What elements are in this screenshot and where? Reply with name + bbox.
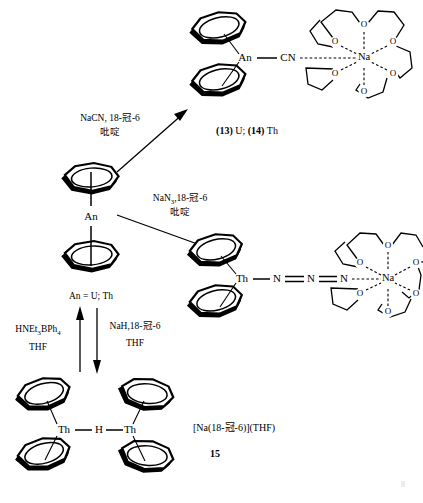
crown-oxygen-label: O: [332, 36, 339, 46]
cyanide-ligand-label: CN: [280, 51, 295, 63]
dimer-counterion-caption: [Na(18-冠-6)](THF): [193, 422, 275, 434]
cyanide-metal-label: An: [238, 51, 252, 63]
reaction-scheme-diagram: An An = U; Th NaCN, 18-冠-6 吡啶 NaN3,18-冠-…: [0, 0, 423, 503]
reagent-cyanide-line1: NaCN, 18-冠-6: [80, 113, 140, 123]
central-caption: An = U; Th: [69, 291, 113, 301]
reagent-label-cyanide: NaCN, 18-冠-6 吡啶: [80, 113, 140, 137]
reagent-up-line1: HNEt3BPh4: [15, 324, 61, 335]
crown-oxygen-label: O: [413, 257, 420, 267]
reagent-up-line2: THF: [29, 342, 47, 352]
dimer-left-cot-bottom: [12, 434, 74, 476]
azide-nitrogen-1: N: [273, 272, 281, 284]
crown-oxygen-label: O: [385, 240, 392, 250]
reagent-down-line2: THF: [126, 338, 144, 348]
azide-nitrogen-2: N: [307, 272, 315, 284]
crown-oxygen-label: O: [413, 288, 420, 298]
crown-oxygen-label: O: [332, 68, 339, 78]
azide-nitrogen-3: N: [340, 272, 348, 284]
cyanide-sodium-label: Na: [358, 51, 371, 62]
reaction-arrow-up: [76, 306, 84, 372]
central-starting-material: An An = U; Th: [61, 163, 118, 301]
reagent-cyanide-line2: 吡啶: [100, 126, 120, 137]
product-hydride-dimer: Th H Th [Na(18-冠-6)](THF) 15: [12, 373, 276, 477]
dimer-compound-number: 15: [210, 448, 220, 459]
reagent-azide-line2: 吡啶: [170, 206, 190, 217]
crown-oxygen-label: O: [385, 306, 392, 316]
cyanide-cot-ring-bottom: [186, 60, 249, 101]
azide-metal-label: Th: [236, 272, 249, 284]
crown-oxygen-label: O: [357, 288, 364, 298]
crown-oxygen-label: O: [357, 257, 364, 267]
crown-oxygen-label: O: [390, 36, 397, 46]
reagent-label-azide: NaN3,18-冠-6 吡啶: [153, 193, 208, 217]
cyanide-compound-caption: (13) U; (14) Th: [216, 125, 278, 137]
dimer-right-cot-bottom: [114, 435, 176, 477]
dimer-right-cot-top: [114, 373, 176, 415]
crown-oxygen-label: O: [361, 86, 368, 96]
azide-cot-ring-bottom: [184, 281, 245, 322]
central-metal-label: An: [84, 210, 98, 222]
reaction-arrow-down: [93, 308, 101, 374]
cot-ring-bottom: [61, 241, 118, 272]
crown-oxygen-label: O: [361, 19, 368, 29]
reagent-down-line1: NaH,18-冠-6: [110, 321, 161, 331]
cyanide-cot-ring-top: [186, 8, 249, 49]
dimer-left-cot-top: [12, 374, 74, 416]
dimer-bridging-hydride: H: [95, 423, 103, 435]
reagent-azide-line1: NaN3,18-冠-6: [153, 193, 208, 204]
azide-cot-ring-top: [184, 230, 245, 271]
page-mark: 8: [401, 480, 405, 489]
reagent-label-deprotonation: NaH,18-冠-6 THF: [110, 321, 161, 348]
reagent-label-protonation: HNEt3BPh4 THF: [15, 324, 61, 352]
product-cyanide-complex: An CN O O O O O: [186, 8, 412, 137]
azide-sodium-label: Na: [382, 272, 395, 283]
crown-oxygen-label: O: [390, 68, 397, 78]
product-azide-complex: Th N N N O O O: [184, 230, 423, 322]
crown-ether-cyanide: O O O O O O Na: [306, 10, 412, 98]
cot-ring-top: [61, 163, 118, 194]
dimer-metal-right: Th: [124, 423, 137, 435]
dimer-metal-left: Th: [58, 423, 71, 435]
